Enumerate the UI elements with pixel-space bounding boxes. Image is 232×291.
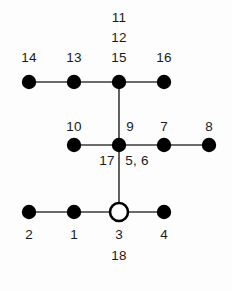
graph-node-filled[interactable] <box>22 75 36 89</box>
node-label: 13 <box>66 51 81 65</box>
node-label: 4 <box>160 228 168 242</box>
graph-node-filled[interactable] <box>112 138 126 152</box>
node-label: 1 <box>70 228 78 242</box>
graph-node-filled[interactable] <box>157 75 171 89</box>
graph-node-hollow[interactable] <box>110 203 128 221</box>
edge-label: 17 <box>99 154 114 168</box>
graph-node-filled[interactable] <box>157 138 171 152</box>
node-label: 14 <box>21 51 36 65</box>
node-label: 9 <box>126 120 134 134</box>
edge-label: 5, 6 <box>125 154 148 168</box>
node-label: 16 <box>156 51 171 65</box>
node-label: 2 <box>25 228 33 242</box>
edge-label: 12 <box>111 31 126 45</box>
node-label: 15 <box>111 51 126 65</box>
graph-figure: 141315161097821341112175, 618 <box>0 0 232 291</box>
graph-node-filled[interactable] <box>112 75 126 89</box>
edge-label: 18 <box>111 249 126 263</box>
graph-node-filled[interactable] <box>67 138 81 152</box>
node-label: 8 <box>205 120 213 134</box>
edge-label: 11 <box>112 11 126 25</box>
graph-node-filled[interactable] <box>202 138 216 152</box>
node-label: 10 <box>66 120 81 134</box>
graph-node-filled[interactable] <box>67 205 81 219</box>
node-label: 3 <box>115 228 123 242</box>
graph-node-filled[interactable] <box>67 75 81 89</box>
node-label: 7 <box>160 120 168 134</box>
graph-node-filled[interactable] <box>22 205 36 219</box>
graph-node-filled[interactable] <box>157 205 171 219</box>
